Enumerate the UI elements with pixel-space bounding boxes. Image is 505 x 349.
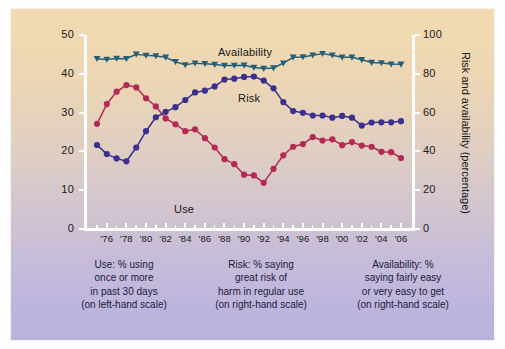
- right-axis-title: Risk and availability (percentage): [460, 18, 472, 248]
- data-point: [143, 128, 149, 134]
- right-axis-tick-label: 20: [423, 183, 436, 195]
- left-axis-tick: [79, 34, 84, 36]
- right-axis-tick-label: 100: [423, 28, 442, 40]
- data-point: [261, 77, 267, 83]
- series-label-availability: Availability: [218, 46, 272, 58]
- data-point: [192, 126, 198, 132]
- caption-line: once or more: [59, 271, 189, 284]
- left-axis-tick-label: 20: [11, 144, 74, 156]
- left-axis-tick-label: 50: [11, 28, 74, 40]
- left-axis-tick: [79, 112, 84, 114]
- caption-line: great risk of: [181, 271, 341, 284]
- data-point: [300, 110, 306, 116]
- caption-line: harm in regular use: [181, 285, 341, 298]
- data-point: [368, 144, 374, 150]
- left-axis-tick: [79, 189, 84, 191]
- data-point: [339, 113, 345, 119]
- data-point: [172, 121, 178, 127]
- caption-line: in past 30 days: [59, 285, 189, 298]
- data-point: [329, 115, 335, 121]
- data-point: [241, 74, 247, 80]
- right-axis-tick: [415, 150, 420, 152]
- data-point: [300, 141, 306, 147]
- left-axis-tick-label: 30: [11, 106, 74, 118]
- data-point: [163, 115, 169, 121]
- data-point: [310, 134, 316, 140]
- chart-panel: 01020304050020406080100'76'78'80'82'84'8…: [11, 9, 494, 340]
- data-point: [398, 155, 404, 161]
- figure-container: 01020304050020406080100'76'78'80'82'84'8…: [0, 0, 505, 349]
- data-point: [270, 85, 276, 91]
- data-point: [339, 142, 345, 148]
- data-point: [94, 142, 100, 148]
- data-point: [133, 144, 139, 150]
- data-point: [319, 137, 325, 143]
- data-point: [202, 135, 208, 141]
- series-label-risk: Risk: [238, 92, 260, 104]
- series-svg: [85, 35, 413, 229]
- caption-line: Risk: % saying: [181, 258, 341, 271]
- data-point: [182, 128, 188, 134]
- data-point: [212, 83, 218, 89]
- data-point: [349, 139, 355, 145]
- data-point: [94, 121, 100, 127]
- data-point: [153, 103, 159, 109]
- data-point: [290, 144, 296, 150]
- plot-area: [85, 35, 413, 229]
- data-point: [212, 144, 218, 150]
- right-axis-tick-label: 60: [423, 106, 436, 118]
- data-point: [114, 155, 120, 161]
- data-point: [133, 84, 139, 90]
- left-axis-tick-label: 40: [11, 67, 74, 79]
- data-point: [221, 156, 227, 162]
- right-axis-tick: [415, 73, 420, 75]
- data-point: [388, 119, 394, 125]
- left-axis-tick: [79, 73, 84, 75]
- caption-line: or very easy to get: [323, 285, 483, 298]
- data-point: [359, 122, 365, 128]
- left-axis-tick: [79, 228, 84, 230]
- right-axis-tick: [415, 112, 420, 114]
- x-axis-tick-label: '06: [387, 233, 415, 244]
- left-axis-tick-label: 0: [11, 222, 74, 234]
- caption-line: (on right-hand scale): [323, 298, 483, 311]
- data-point: [114, 89, 120, 95]
- data-point: [329, 136, 335, 142]
- data-point: [359, 142, 365, 148]
- data-point: [163, 109, 169, 115]
- left-axis-tick-label: 10: [11, 183, 74, 195]
- right-axis-tick: [415, 34, 420, 36]
- data-point: [202, 88, 208, 94]
- right-axis-tick-label: 40: [423, 144, 436, 156]
- data-point: [310, 112, 316, 118]
- data-point: [349, 115, 355, 121]
- data-point: [251, 172, 257, 178]
- data-point: [388, 149, 394, 155]
- data-point: [290, 108, 296, 114]
- caption-line: Availability: %: [323, 258, 483, 271]
- data-point: [143, 95, 149, 101]
- caption-line: (on right-hand scale): [181, 298, 341, 311]
- data-point: [319, 112, 325, 118]
- caption-availability: Availability: %saying fairly easyor very…: [323, 258, 483, 312]
- data-point: [231, 161, 237, 167]
- data-point: [378, 119, 384, 125]
- data-point: [221, 77, 227, 83]
- data-point: [398, 118, 404, 124]
- data-point: [153, 114, 159, 120]
- data-point: [280, 152, 286, 158]
- data-point: [104, 101, 110, 107]
- data-point: [123, 158, 129, 164]
- data-point: [231, 76, 237, 82]
- data-point: [368, 119, 374, 125]
- data-point: [172, 104, 178, 110]
- left-axis-tick: [79, 150, 84, 152]
- data-point: [280, 99, 286, 105]
- right-axis-tick-label: 0: [423, 222, 429, 234]
- data-point: [270, 166, 276, 172]
- right-axis-tick-label: 80: [423, 67, 436, 79]
- caption-risk: Risk: % sayinggreat risk ofharm in regul…: [181, 258, 341, 312]
- caption-line: saying fairly easy: [323, 271, 483, 284]
- series-line-risk: [97, 77, 401, 162]
- series-label-use: Use: [174, 203, 194, 215]
